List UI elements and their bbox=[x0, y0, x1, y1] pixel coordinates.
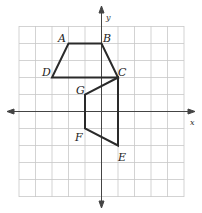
vertex-label-g: G bbox=[76, 84, 85, 97]
y-axis-top-arrow-icon bbox=[99, 6, 104, 13]
x-axis-right-arrow-icon bbox=[188, 109, 195, 114]
x-axis-left-arrow-icon bbox=[7, 109, 14, 114]
vertex-label-f: F bbox=[74, 131, 83, 144]
y-axis-bottom-arrow-icon bbox=[99, 201, 104, 208]
x-axis-label: x bbox=[190, 118, 195, 127]
vertex-label-e: E bbox=[117, 151, 126, 164]
vertex-label-c: C bbox=[118, 66, 127, 79]
vertex-label-a: A bbox=[57, 32, 66, 45]
coordinate-plane: y x A B C D G F E bbox=[0, 0, 202, 213]
vertex-label-b: B bbox=[102, 32, 111, 45]
y-axis-label: y bbox=[105, 13, 111, 22]
vertex-label-d: D bbox=[41, 66, 51, 79]
